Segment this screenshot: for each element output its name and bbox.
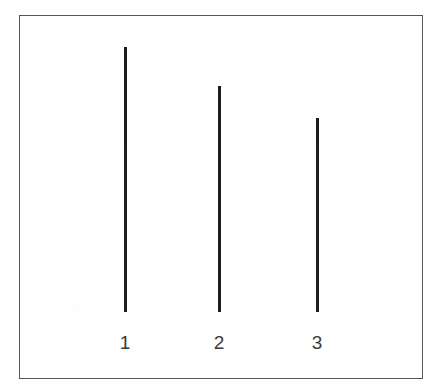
category-label-3: 3 xyxy=(287,333,347,352)
vertical-line-2 xyxy=(218,86,221,312)
vertical-line-1 xyxy=(124,47,127,312)
category-label-2: 2 xyxy=(189,333,249,352)
plot-border-frame xyxy=(19,15,423,379)
vertical-line-3 xyxy=(316,118,319,312)
figure-canvas: 123 xyxy=(0,0,435,392)
category-label-1: 1 xyxy=(95,333,155,352)
